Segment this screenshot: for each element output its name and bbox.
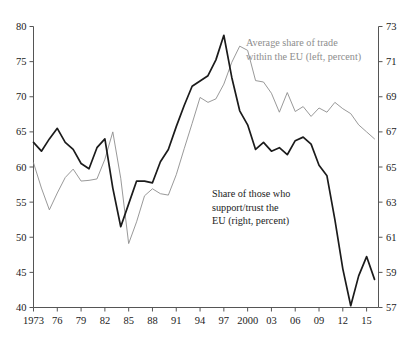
left-axis-tick-label: 75 — [16, 56, 27, 67]
left-axis-tick-label: 55 — [16, 197, 27, 208]
trust-series-annotation: Share of those who support/trust the EU … — [212, 187, 290, 228]
right-axis-tick-label: 65 — [386, 162, 397, 173]
x-axis-tick-label: 94 — [195, 315, 206, 326]
series-line-trust — [34, 35, 375, 305]
x-axis-tick-label: 03 — [266, 315, 277, 326]
right-axis-tick-label: 61 — [386, 232, 397, 243]
x-axis-tick-label: 12 — [338, 315, 349, 326]
trade-series-annotation: Average share of trade within the EU (le… — [246, 36, 361, 63]
left-axis-tick-label: 50 — [16, 232, 27, 243]
x-axis-tick-label: 15 — [361, 315, 372, 326]
chart-container: 404550556065707580 575961636567697173 19… — [0, 0, 420, 341]
right-axis-tick-label: 57 — [386, 302, 397, 313]
right-axis-tick-label: 67 — [386, 126, 397, 137]
x-axis-tick-label: 2000 — [237, 315, 258, 326]
x-axis-tick-label: 82 — [100, 315, 111, 326]
left-axis-tick-label: 70 — [16, 91, 27, 102]
x-axis-tick-label: 97 — [219, 315, 230, 326]
left-axis-tick-label: 80 — [16, 21, 27, 32]
x-axis-tick-label: 85 — [123, 315, 134, 326]
x-axis-tick-label: 91 — [171, 315, 182, 326]
right-axis-tick-label: 59 — [386, 267, 397, 278]
chart-series-lines — [34, 35, 375, 305]
x-axis-tick-label: 06 — [290, 315, 301, 326]
left-axis-tick-label: 60 — [16, 162, 27, 173]
left-axis-tick-label: 40 — [16, 302, 27, 313]
right-axis-tick-label: 73 — [386, 21, 397, 32]
right-axis-tick-label: 63 — [386, 197, 397, 208]
x-axis-ticks: 1973767982858891949720000306091215 — [23, 308, 372, 327]
x-axis-tick-label: 76 — [52, 315, 63, 326]
right-axis-tick-label: 69 — [386, 91, 397, 102]
x-axis-tick-label: 1973 — [23, 315, 44, 326]
left-axis-ticks: 404550556065707580 — [16, 21, 34, 313]
left-axis-tick-label: 65 — [16, 126, 27, 137]
right-axis-tick-label: 71 — [386, 56, 397, 67]
x-axis-tick-label: 88 — [147, 315, 158, 326]
x-axis-tick-label: 79 — [76, 315, 87, 326]
left-axis-tick-label: 45 — [16, 267, 27, 278]
series-line-trade — [34, 46, 375, 243]
x-axis-tick-label: 09 — [314, 315, 325, 326]
right-axis-ticks: 575961636567697173 — [379, 21, 397, 313]
